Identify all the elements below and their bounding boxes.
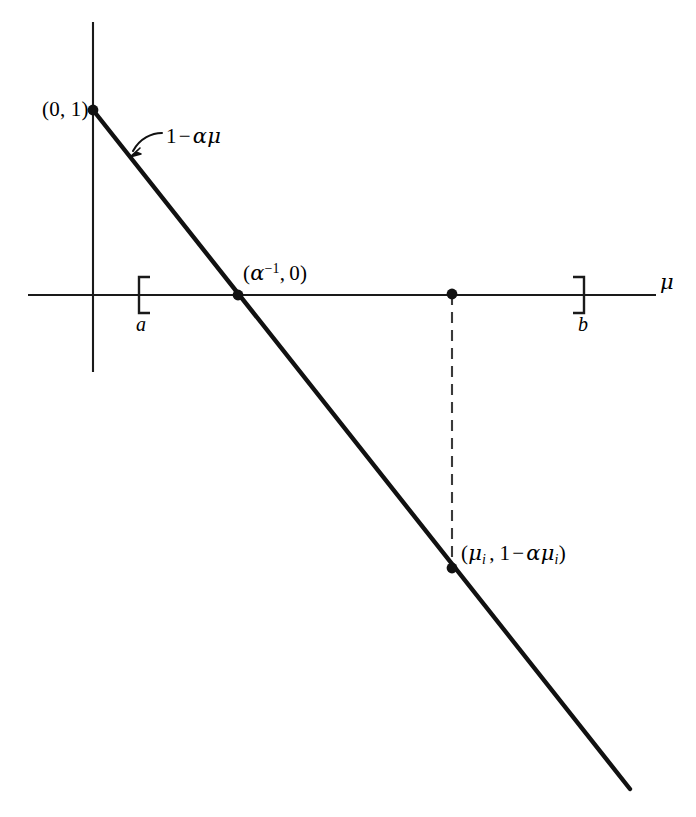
curve-label-alpha: α <box>193 124 207 148</box>
annotation-arrow <box>133 133 162 151</box>
mu-i-label-one: 1 <box>495 541 511 565</box>
figure-container: (0, 1) 1−αμ (α−1,0) μ a b (μi,1−αμi) <box>0 0 696 817</box>
root-label-zero: 0 <box>285 261 300 285</box>
figure-canvas <box>0 0 696 817</box>
curve-label: 1−αμ <box>166 126 221 147</box>
curve-label-minus: − <box>177 124 193 148</box>
interval-left-bracket-label: a <box>136 314 146 334</box>
mu-i-axis-point <box>447 289 458 300</box>
mu-i-curve-label: (μi,1−αμi) <box>461 543 566 567</box>
mu-i-label-comma: , <box>486 541 494 565</box>
annotation-arrowhead-icon <box>130 148 141 157</box>
root-label-alpha: α <box>250 261 264 285</box>
interval-right-bracket-label: b <box>578 314 588 334</box>
line-1-minus-alpha-mu <box>93 110 630 789</box>
mu-i-label-close: ) <box>559 541 566 565</box>
y-intercept-point <box>88 105 99 116</box>
mu-i-label-alpha: α <box>526 541 540 565</box>
mu-axis-label: μ <box>660 272 674 293</box>
root-label: (α−1,0) <box>243 262 307 284</box>
interval-right-bracket-label-text: b <box>578 313 588 335</box>
mu-axis-label-text: μ <box>660 270 674 294</box>
root-point <box>233 290 244 301</box>
y-intercept-label: (0, 1) <box>42 99 89 120</box>
root-label-exponent: −1 <box>265 261 280 276</box>
mu-i-label-mu: μ <box>468 541 482 565</box>
curve-label-mu: μ <box>207 124 221 148</box>
y-intercept-label-text: (0, 1) <box>42 97 89 121</box>
mu-i-label-mu2: μ <box>541 541 555 565</box>
mu-i-label-minus: − <box>510 541 526 565</box>
mu-i-curve-point <box>447 563 458 574</box>
root-label-close: ) <box>300 261 307 285</box>
curve-label-one: 1 <box>166 124 177 148</box>
interval-left-bracket-label-text: a <box>136 313 146 335</box>
